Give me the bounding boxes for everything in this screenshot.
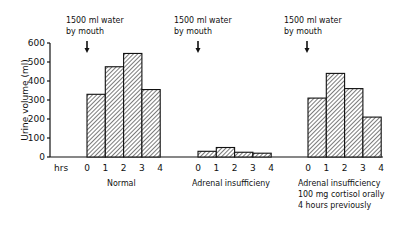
bar [198, 151, 216, 157]
y-tick-label: 600 [28, 38, 45, 48]
x-tick-label: 3 [139, 163, 145, 173]
annotation-group-1: 1500 ml water by mouth [66, 15, 124, 37]
x-tick-label: 2 [121, 163, 127, 173]
bar [124, 53, 142, 157]
x-tick-label: 1 [213, 163, 219, 173]
y-tick-label: 300 [28, 95, 45, 105]
x-tick-label: 0 [305, 163, 311, 173]
group-label-cortisol-line-3: 4 hours previously [298, 200, 384, 211]
annotation-line-2: by mouth [174, 26, 232, 37]
x-tick-label: 2 [232, 163, 238, 173]
x-tick-label: 0 [84, 163, 90, 173]
x-tick-label: 4 [268, 163, 274, 173]
x-tick-label: 4 [378, 163, 384, 173]
x-tick-label: 3 [250, 163, 256, 173]
group-label-cortisol-line-2: 100 mg cortisol orally [298, 189, 384, 200]
x-tick-label: 4 [157, 163, 163, 173]
bar [142, 90, 160, 157]
annotation-line-1: 1500 ml water [66, 15, 124, 26]
y-tick-label: 500 [28, 57, 45, 67]
x-tick-label: 2 [342, 163, 348, 173]
bar [105, 67, 123, 157]
bar [253, 153, 271, 157]
down-arrow-head-icon [305, 48, 310, 53]
annotation-group-2: 1500 ml water by mouth [174, 15, 232, 37]
group-label-cortisol: Adrenal insufficiency 100 mg cortisol or… [298, 178, 384, 211]
x-tick-label: 3 [360, 163, 366, 173]
bar [235, 152, 253, 157]
group-label-adrenal-insufficiency: Adrenal insufficieny [192, 178, 270, 189]
annotation-group-3: 1500 ml water by mouth [284, 15, 342, 37]
y-tick-label: 400 [28, 76, 45, 86]
x-axis-unit-label: hrs [54, 163, 68, 173]
x-tick-label: 0 [195, 163, 201, 173]
bar [87, 94, 105, 157]
y-tick-label: 0 [39, 152, 45, 162]
y-tick-label: 100 [28, 133, 45, 143]
bars [87, 53, 381, 157]
annotation-line-1: 1500 ml water [284, 15, 342, 26]
y-axis-ticks: 0100200300400500600 [28, 38, 50, 162]
down-arrow-head-icon [85, 48, 90, 53]
bar [326, 73, 344, 157]
annotation-line-1: 1500 ml water [174, 15, 232, 26]
annotation-line-2: by mouth [66, 26, 124, 37]
annotation-line-2: by mouth [284, 26, 342, 37]
x-axis-tick-labels: 012340123401234 [84, 163, 384, 173]
bar [308, 98, 326, 157]
bar [363, 117, 381, 157]
bar [345, 89, 363, 157]
x-tick-label: 1 [323, 163, 329, 173]
group-label-cortisol-line-1: Adrenal insufficiency [298, 178, 384, 189]
annotation-arrows [85, 41, 310, 53]
group-label-normal: Normal [107, 178, 136, 189]
down-arrow-head-icon [196, 48, 201, 53]
bar [216, 148, 234, 158]
y-tick-label: 200 [28, 114, 45, 124]
x-tick-label: 1 [102, 163, 108, 173]
